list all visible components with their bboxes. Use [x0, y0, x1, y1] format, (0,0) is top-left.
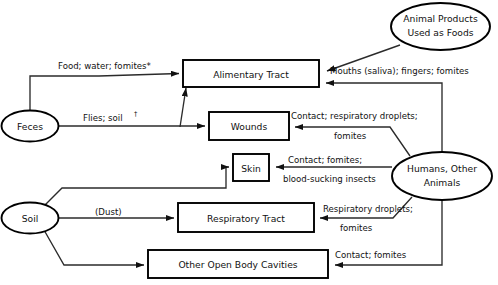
edge-soil-to-other-open-body-cavities — [44, 230, 144, 265]
edge-label-flies-soil-dagger: † — [134, 110, 138, 118]
node-feces-label: Feces — [17, 121, 43, 132]
node-alimentary-tract-label: Alimentary Tract — [213, 69, 289, 80]
node-wounds-label: Wounds — [231, 121, 268, 132]
edge-wounds-branch-to-alimentary-tract — [180, 88, 186, 127]
edge-label-contact-fomites-skin: Contact; fomites; — [288, 155, 362, 165]
node-animal-products-label-line1: Animal Products — [403, 13, 478, 24]
node-humans-other-animals[interactable]: Humans, Other Animals — [392, 152, 492, 200]
node-skin[interactable]: Skin — [233, 154, 269, 181]
diagram-canvas: Alimentary Tract Wounds Skin Respiratory… — [0, 0, 498, 285]
node-soil[interactable]: Soil — [2, 203, 59, 234]
node-feces[interactable]: Feces — [2, 111, 59, 142]
node-humans-other-animals-label-line1: Humans, Other — [407, 163, 477, 174]
edge-label-contact-fomites-cavities: Contact; fomites — [335, 250, 407, 260]
node-animal-products-label-line2: Used as Foods — [407, 27, 473, 38]
node-respiratory-tract[interactable]: Respiratory Tract — [178, 203, 314, 232]
node-other-open-body-cavities-label: Other Open Body Cavities — [178, 259, 297, 270]
node-skin-label: Skin — [241, 163, 261, 174]
edge-feces-to-alimentary-tract — [30, 74, 179, 112]
node-alimentary-tract[interactable]: Alimentary Tract — [183, 60, 319, 87]
edge-label-contact-respiratory-droplets: Contact; respiratory droplets; — [291, 111, 418, 121]
edge-label-respiratory-droplets: Respiratory droplets; — [323, 204, 413, 214]
edge-label-flies-soil: Flies; soil † — [83, 110, 138, 123]
node-respiratory-tract-label: Respiratory Tract — [207, 213, 285, 224]
node-other-open-body-cavities[interactable]: Other Open Body Cavities — [148, 250, 328, 278]
edge-label-blood-sucking-insects: blood-sucking insects — [283, 174, 376, 184]
edge-label-dust: (Dust) — [95, 207, 122, 217]
node-animal-products-used-as-foods[interactable]: Animal Products Used as Foods — [391, 3, 490, 50]
node-humans-other-animals-label-line2: Animals — [424, 177, 461, 188]
edge-soil-to-skin — [44, 167, 229, 206]
edge-label-food-water-fomites: Food; water; fomites* — [58, 61, 152, 71]
transmission-routes-diagram: Alimentary Tract Wounds Skin Respiratory… — [0, 0, 498, 285]
edge-label-mouths-saliva-fingers-fomites: Mouths (saliva); fingers; fomites — [330, 66, 469, 76]
edge-label-fomites-respiratory: fomites — [340, 223, 373, 233]
node-wounds[interactable]: Wounds — [209, 112, 289, 140]
node-soil-label: Soil — [22, 213, 39, 224]
edge-label-flies-soil-text: Flies; soil — [83, 113, 123, 123]
edge-label-fomites-wounds: fomites — [334, 131, 367, 141]
